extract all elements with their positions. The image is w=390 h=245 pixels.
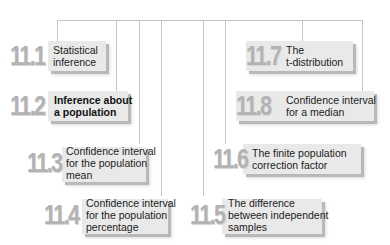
connector-11-3 [139,20,140,144]
connector-11-6 [225,20,226,144]
section-number: 11.6 [213,146,244,173]
section-label: Statistical inference [53,44,98,68]
node-11-7: 11.7 The t-distribution [246,41,343,71]
section-number: 11.5 [190,202,220,229]
section-label: Inference about a population [54,94,132,118]
node-11-5: 11.5 The difference between independent … [190,196,328,234]
section-number: 11.1 [10,43,44,70]
section-label: The t-distribution [286,44,343,68]
node-11-1: 11.1 Statistical inference [10,41,98,71]
section-number: 11.3 [27,150,58,177]
connector-11-7 [302,20,303,41]
section-label: Confidence interval for the population m… [66,145,156,181]
section-number: 11.7 [246,43,278,70]
section-label: Confidence interval for a median [286,94,376,118]
node-11-8: 11.8 Confidence interval for a median [236,91,376,121]
section-number: 11.2 [10,93,45,120]
node-11-6: 11.6 The finite population correction fa… [213,144,347,174]
section-label: The difference between independent sampl… [228,197,328,233]
section-number: 11.8 [236,93,276,120]
section-number: 11.4 [44,202,78,229]
section-label: The finite population correction factor [252,147,347,171]
connector-top-bar [57,20,363,21]
node-11-4: 11.4 Confidence interval for the populat… [44,196,176,234]
connector-11-4 [161,20,162,196]
connector-11-5 [203,20,204,196]
node-11-3: 11.3 Confidence interval for the populat… [27,144,156,182]
connector-11-8 [362,20,363,91]
connector-11-1 [57,20,58,41]
connector-11-2 [116,20,117,91]
section-label: Confidence interval for the population p… [86,197,176,233]
node-11-2: 11.2 Inference about a population [10,91,132,121]
